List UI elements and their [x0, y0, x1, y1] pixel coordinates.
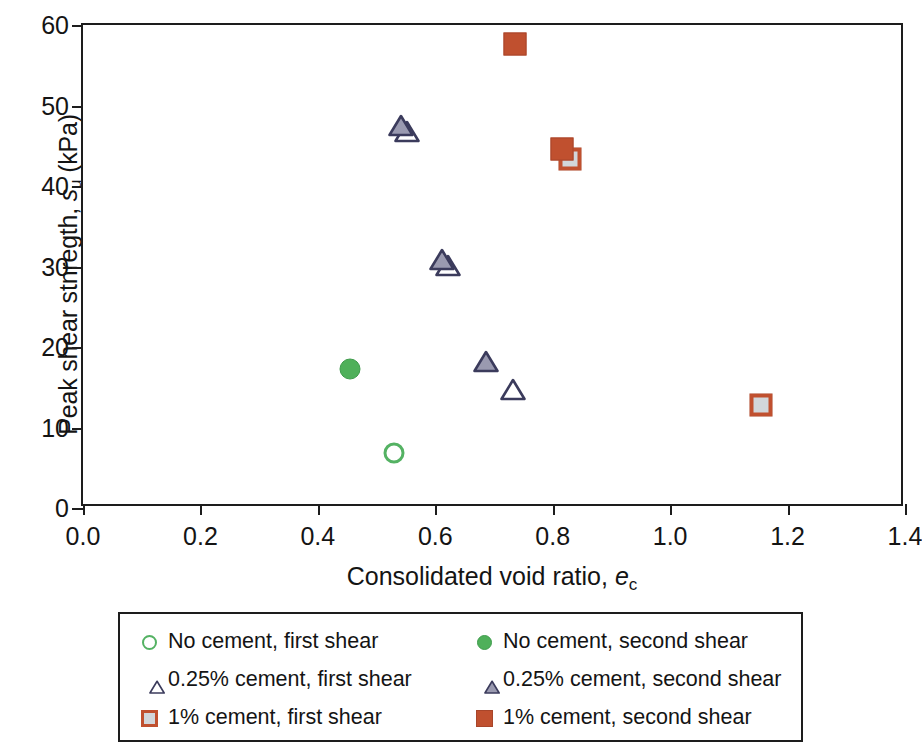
legend-label: 1% cement, second shear — [503, 707, 752, 729]
x-axis-title-symbol: e — [615, 562, 629, 590]
y-tick-mark — [72, 186, 83, 188]
y-tick-mark — [72, 428, 83, 430]
x-tick-mark — [670, 504, 672, 515]
x-tick-mark — [318, 504, 320, 515]
y-tick-mark — [72, 508, 83, 510]
data-point — [750, 393, 773, 416]
legend-entry[interactable]: No cement, first shear — [137, 630, 378, 654]
legend-marker — [137, 630, 161, 654]
y-tick-label: 60 — [41, 11, 69, 40]
legend-marker — [472, 706, 496, 730]
y-tick-mark — [72, 25, 83, 27]
legend-label: 0.25% cement, second shear — [503, 669, 781, 691]
x-axis-title-subscript: c — [629, 575, 638, 594]
x-tick-mark — [553, 504, 555, 515]
x-tick-mark — [905, 504, 907, 515]
legend-entry[interactable]: 1% cement, second shear — [472, 706, 752, 730]
legend-marker — [472, 630, 496, 654]
legend-entry[interactable]: 0.25% cement, second shear — [472, 668, 781, 692]
marker-circle-filled — [477, 635, 492, 650]
data-point — [340, 358, 361, 379]
legend-entry[interactable]: 0.25% cement, first shear — [137, 668, 412, 692]
y-tick-label: 30 — [41, 252, 69, 281]
marker-square-filled — [503, 32, 526, 55]
legend-entry[interactable]: No cement, second shear — [472, 630, 748, 654]
marker-square-filled — [550, 137, 573, 160]
data-point — [384, 443, 405, 464]
legend-label: No cement, first shear — [168, 631, 378, 653]
legend-entry[interactable]: 1% cement, first shear — [137, 706, 382, 730]
y-tick-mark — [72, 106, 83, 108]
legend-label: 1% cement, first shear — [168, 707, 382, 729]
y-tick-label: 50 — [41, 91, 69, 120]
x-tick-label: 0.6 — [418, 522, 453, 551]
marker-square-hatched — [750, 393, 773, 416]
legend-marker — [137, 706, 161, 730]
data-point — [550, 137, 573, 160]
x-tick-mark — [435, 504, 437, 515]
legend-label: 0.25% cement, first shear — [168, 669, 412, 691]
marker-circle-open — [384, 443, 405, 464]
x-tick-label: 1.4 — [888, 522, 922, 551]
x-tick-label: 0.2 — [183, 522, 218, 551]
x-axis-title: Consolidated void ratio, ec — [81, 562, 903, 595]
x-axis-title-prefix: Consolidated void ratio, — [347, 562, 615, 590]
x-tick-label: 0.8 — [535, 522, 570, 551]
data-point — [503, 32, 526, 55]
y-tick-label: 20 — [41, 333, 69, 362]
legend-marker — [472, 668, 496, 692]
legend-marker — [137, 668, 161, 692]
y-axis-title-prefix: Peak shear stnregth, — [54, 201, 82, 434]
x-tick-mark — [788, 504, 790, 515]
legend-label: No cement, second shear — [503, 631, 748, 653]
marker-square-filled — [476, 710, 493, 727]
y-tick-label: 10 — [41, 413, 69, 442]
x-tick-mark — [83, 504, 85, 515]
plot-area: 0102030405060 0.00.20.40.60.81.01.21.4 — [81, 23, 903, 506]
y-axis-title-units: (kPa) — [54, 114, 82, 179]
x-tick-label: 1.0 — [653, 522, 688, 551]
x-tick-label: 0.0 — [66, 522, 101, 551]
marker-circle-open — [142, 635, 157, 650]
y-tick-label: 0 — [55, 494, 69, 523]
marker-circle-filled — [340, 358, 361, 379]
y-tick-mark — [72, 347, 83, 349]
y-tick-mark — [72, 267, 83, 269]
x-tick-label: 1.2 — [770, 522, 805, 551]
x-tick-label: 0.4 — [300, 522, 335, 551]
chart-legend: No cement, first shearNo cement, second … — [118, 612, 803, 742]
y-tick-label: 40 — [41, 172, 69, 201]
x-tick-mark — [200, 504, 202, 515]
marker-square-hatched — [141, 710, 158, 727]
